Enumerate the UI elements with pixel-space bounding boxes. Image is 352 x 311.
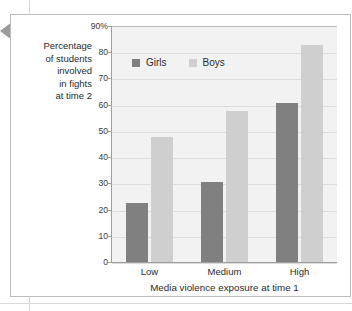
bar-girls-low <box>126 203 148 263</box>
y-tick-label: 40 <box>78 152 108 162</box>
y-tick-mark <box>108 78 111 79</box>
y-tick-mark <box>108 183 111 184</box>
y-tick-mark <box>108 210 111 211</box>
bar-boys-medium <box>226 111 248 263</box>
y-tick-label: 0 <box>78 257 108 267</box>
legend-item-boys: Boys <box>189 57 225 68</box>
legend: GirlsBoys <box>132 57 225 68</box>
y-tick-label: 50 <box>78 126 108 136</box>
y-tick-mark <box>108 105 111 106</box>
y-tick-label: 30 <box>78 178 108 188</box>
gridline <box>112 263 337 264</box>
y-tick-mark <box>108 52 111 53</box>
x-tick-label-medium: Medium <box>208 266 242 277</box>
x-tick-label-high: High <box>290 266 310 277</box>
y-tick-mark <box>108 26 111 27</box>
y-tick-mark <box>108 236 111 237</box>
y-tick-label: 80 <box>78 47 108 57</box>
figure-container: Percentage of students involved in fight… <box>0 0 352 311</box>
legend-swatch-boys <box>189 59 197 67</box>
x-axis-line <box>111 262 337 263</box>
page-rule-left-lower <box>29 297 30 311</box>
bar-girls-high <box>276 103 298 263</box>
bar-girls-medium <box>201 182 223 263</box>
legend-label-boys: Boys <box>203 57 225 68</box>
y-tick-label: 10 <box>78 231 108 241</box>
y-tick-mark <box>108 131 111 132</box>
y-tick-label: 90% <box>78 21 108 31</box>
bar-boys-high <box>301 45 323 263</box>
x-tick-label-low: Low <box>141 266 158 277</box>
y-tick-label: 60 <box>78 100 108 110</box>
x-axis-label: Media violence exposure at time 1 <box>112 282 337 293</box>
y-axis-ticks: 0102030405060708090% <box>76 26 108 262</box>
legend-swatch-girls <box>132 59 140 67</box>
y-tick-label: 20 <box>78 205 108 215</box>
legend-item-girls: Girls <box>132 57 167 68</box>
legend-label-girls: Girls <box>146 57 167 68</box>
y-tick-label: 70 <box>78 73 108 83</box>
y-tick-mark <box>108 262 111 263</box>
bar-boys-low <box>151 137 173 263</box>
page-rule-bottom <box>0 303 352 304</box>
page-rule-left <box>29 0 30 14</box>
y-tick-mark <box>108 157 111 158</box>
y-axis-line <box>111 26 112 263</box>
